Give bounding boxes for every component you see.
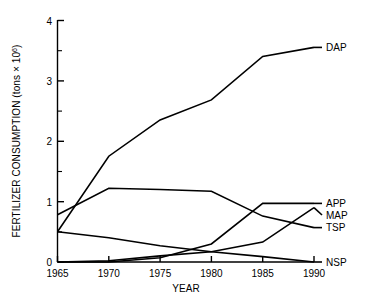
- x-axis-tick-labels: 1965 1970 1975 1980 1985 1990: [46, 268, 325, 279]
- y-axis-title-main: FERTILIZER CONSUMPTION (tons × 10: [11, 52, 22, 238]
- x-axis-title: YEAR: [172, 283, 200, 294]
- x-tick-label: 1985: [252, 268, 275, 279]
- y-axis-tick-labels: 4 3 2 1 0: [46, 16, 52, 269]
- series-leader-map: [314, 208, 322, 215]
- series-label-map: MAP: [326, 210, 348, 221]
- svg-text:FERTILIZER CONSUMPTION (tons ×: FERTILIZER CONSUMPTION (tons × 106): [11, 44, 23, 237]
- y-tick-label: 1: [46, 197, 52, 208]
- series-label-tsp: TSP: [326, 222, 346, 233]
- series-label-dap: DAP: [326, 42, 347, 53]
- y-axis-title-close: ): [11, 44, 22, 47]
- chart-plot-area: 4 3 2 1 0 1965 1970 1975 1980 1985 1990 …: [0, 0, 366, 304]
- x-tick-label: 1975: [149, 268, 172, 279]
- series-line-nsp: [58, 232, 315, 262]
- y-tick-label: 4: [46, 16, 52, 27]
- y-tick-label: 2: [46, 136, 52, 147]
- y-axis-title: FERTILIZER CONSUMPTION (tons × 106): [11, 44, 23, 237]
- series-label-app: APP: [326, 198, 346, 209]
- x-tick-label: 1970: [98, 268, 121, 279]
- y-tick-label: 0: [46, 257, 52, 268]
- x-tick-label: 1965: [46, 268, 69, 279]
- series-line-tsp: [58, 188, 315, 227]
- series-line-map: [58, 208, 315, 262]
- x-tick-label: 1990: [303, 268, 326, 279]
- x-tick-label: 1980: [200, 268, 223, 279]
- y-tick-label: 3: [46, 76, 52, 87]
- series-label-nsp: NSP: [326, 257, 347, 268]
- fertilizer-consumption-line-chart: 4 3 2 1 0 1965 1970 1975 1980 1985 1990 …: [0, 0, 366, 304]
